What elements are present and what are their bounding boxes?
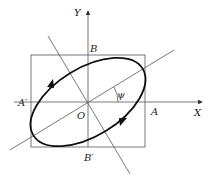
label-x-axis: X [193,107,202,118]
label-origin: O [77,110,85,121]
label-b-prime: B′ [83,152,94,163]
label-angle-psi: ψ [117,89,125,100]
label-y-axis: Y [74,7,82,18]
label-a-prime: A′ [17,97,28,108]
direction-arrow-upper [47,79,54,88]
major-axis-line [10,50,174,150]
label-b: B [89,43,97,54]
label-a: A [150,106,158,117]
polarization-ellipse-diagram: Y X B B′ A A′ O ψ [0,0,212,183]
direction-arrow-lower [119,118,127,126]
